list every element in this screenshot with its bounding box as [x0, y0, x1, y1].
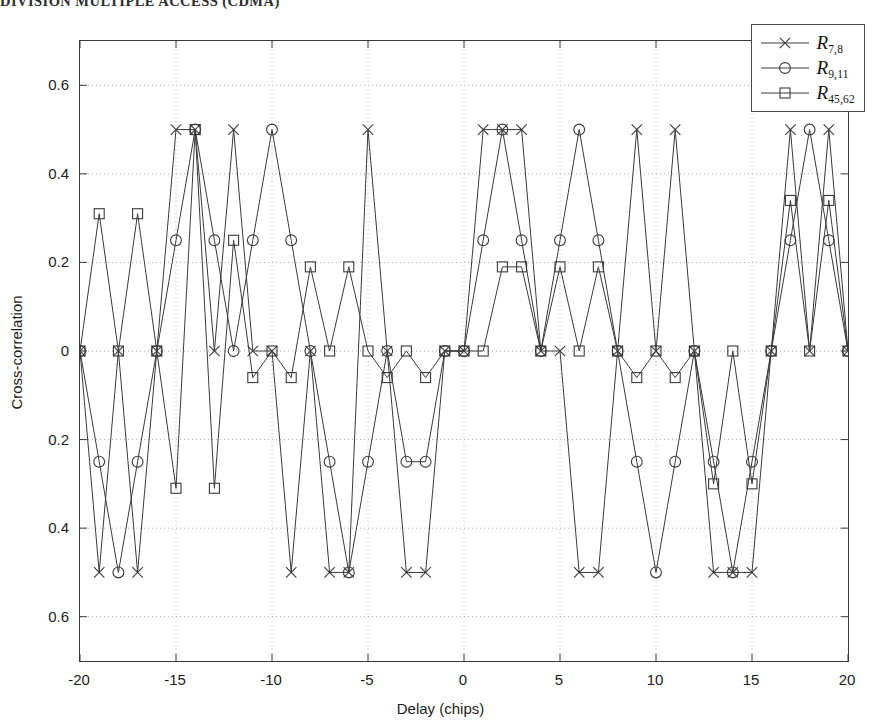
- y-tick-label: 0.2: [17, 430, 69, 447]
- figure-page: DIVISION MULTIPLE ACCESS (CDMA) -20-15-1…: [0, 0, 881, 721]
- plot-svg: [80, 41, 848, 661]
- x-tick-label: 20: [839, 671, 856, 688]
- y-tick-label: 0.6: [17, 76, 69, 93]
- legend-item: R7,8: [759, 30, 855, 55]
- legend-label: R45,62: [817, 83, 855, 102]
- x-marker-icon: [759, 32, 811, 54]
- y-tick-label: 0.6: [17, 607, 69, 624]
- legend-label: R9,11: [817, 58, 849, 77]
- x-tick-label: 0: [459, 671, 467, 688]
- x-axis-label: Delay (chips): [0, 700, 881, 717]
- legend-item: R45,62: [759, 80, 855, 105]
- plot-inner: [80, 41, 848, 661]
- y-axis-label: Cross-correlation: [8, 233, 25, 473]
- x-tick-label: -15: [164, 671, 186, 688]
- circle-marker-icon: [759, 57, 811, 79]
- x-tick-label: 5: [555, 671, 563, 688]
- plot-area: [79, 40, 849, 662]
- square-marker-icon: [759, 82, 811, 104]
- legend-label: R7,8: [817, 33, 844, 52]
- x-tick-label: -5: [360, 671, 373, 688]
- y-tick-label: 0.2: [17, 253, 69, 270]
- x-tick-label: -20: [68, 671, 90, 688]
- y-tick-label: 0: [17, 342, 69, 359]
- y-tick-label: 0.4: [17, 519, 69, 536]
- x-tick-label: 15: [743, 671, 760, 688]
- page-running-header: DIVISION MULTIPLE ACCESS (CDMA): [0, 0, 881, 9]
- legend-item: R9,11: [759, 55, 855, 80]
- x-tick-label: 10: [647, 671, 664, 688]
- y-tick-label: 0.4: [17, 164, 69, 181]
- cross-correlation-chart: -20-15-10-5051015200.60.40.200.20.40.6 D…: [0, 14, 881, 721]
- legend: R7,8R9,11R45,62: [751, 24, 865, 112]
- x-tick-label: -10: [260, 671, 282, 688]
